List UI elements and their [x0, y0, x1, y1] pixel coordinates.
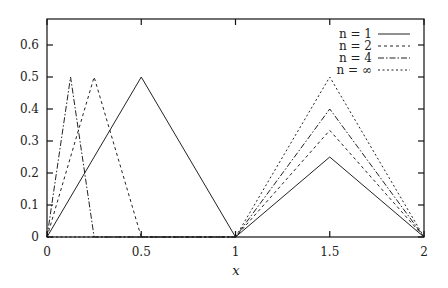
- x-tick-label: 1.5: [320, 245, 339, 259]
- y-tick-label: 0.6: [20, 38, 39, 52]
- y-tick-label: 0.2: [20, 166, 39, 180]
- legend-label: n = ∞: [337, 63, 372, 77]
- series-line-3: [47, 77, 424, 237]
- x-tick-label: 2: [420, 245, 428, 259]
- x-tick-label: 0.5: [132, 245, 151, 259]
- data-series: [47, 77, 424, 237]
- y-tick-label: 0.3: [20, 134, 39, 148]
- x-tick-label: 1: [232, 245, 240, 259]
- y-tick-label: 0.4: [20, 102, 39, 116]
- legend: n = 1n = 2n = 4n = ∞: [337, 27, 410, 77]
- y-tick-label: 0: [31, 230, 39, 244]
- series-line-1: [47, 77, 424, 237]
- y-tick-label: 0.1: [20, 198, 39, 212]
- x-axis-label: x: [232, 263, 240, 278]
- line-chart: 00.10.20.30.40.50.6 00.511.52 n = 1n = 2…: [0, 0, 448, 288]
- series-line-4: [47, 77, 424, 237]
- y-tick-label: 0.5: [20, 70, 39, 84]
- x-tick-label: 0: [43, 245, 51, 259]
- series-line-2: [47, 77, 424, 237]
